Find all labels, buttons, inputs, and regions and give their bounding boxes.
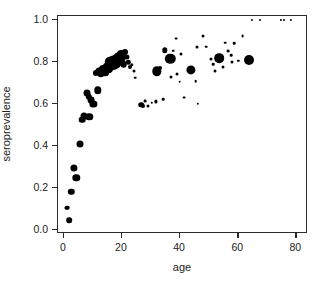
data-point [230, 54, 233, 57]
data-point [233, 42, 236, 45]
plot-frame [57, 15, 307, 233]
data-point [221, 66, 224, 69]
data-point [65, 206, 70, 211]
data-point [205, 45, 208, 48]
data-point [165, 53, 175, 63]
data-point [176, 72, 179, 75]
y-tick-mark [52, 61, 57, 62]
data-point [214, 54, 224, 64]
data-point [158, 66, 162, 70]
data-point [237, 60, 239, 62]
data-point [259, 19, 261, 21]
data-point [124, 54, 129, 59]
y-tick-label: 0.8 [33, 55, 48, 67]
y-tick-mark [52, 103, 57, 104]
data-point [162, 98, 165, 101]
data-point [227, 50, 230, 53]
x-tick-label: 0 [60, 241, 66, 253]
data-point [180, 52, 183, 55]
y-tick-mark [52, 187, 57, 188]
x-tick-mark [63, 233, 64, 238]
data-point [187, 65, 196, 74]
data-point [231, 60, 234, 63]
data-point [154, 100, 157, 103]
data-point [132, 69, 135, 72]
data-point [283, 19, 285, 21]
data-point [280, 19, 282, 21]
y-axis-label: seroprevalence [0, 86, 12, 161]
data-point [94, 87, 101, 94]
data-point [244, 55, 254, 65]
data-point [183, 96, 186, 99]
data-point [209, 57, 212, 60]
x-tick-label: 80 [290, 241, 302, 253]
scatter-plot-figure: 020406080 0.00.20.40.60.81.0 age seropre… [0, 0, 333, 285]
data-point [212, 63, 215, 66]
data-points-layer [58, 16, 306, 232]
y-tick-label: 0.6 [33, 97, 48, 109]
data-point [130, 63, 133, 66]
data-point [241, 35, 244, 38]
data-point [144, 100, 147, 103]
x-tick-label: 60 [231, 241, 243, 253]
data-point [150, 102, 152, 104]
data-point [224, 41, 227, 44]
data-point [251, 19, 253, 21]
y-tick-mark [52, 229, 57, 230]
data-point [196, 102, 198, 104]
x-tick-label: 20 [115, 241, 127, 253]
data-point [70, 164, 77, 171]
data-point [77, 141, 84, 148]
data-point [134, 76, 137, 79]
data-point [73, 174, 80, 181]
x-tick-label: 40 [173, 241, 185, 253]
data-point [175, 37, 178, 40]
data-point [170, 75, 173, 78]
y-tick-mark [52, 19, 57, 20]
x-tick-mark [179, 233, 180, 238]
x-tick-mark [237, 233, 238, 238]
data-point [194, 80, 197, 83]
x-tick-mark [295, 233, 296, 238]
data-point [86, 113, 93, 120]
data-point [68, 188, 74, 194]
data-point [141, 104, 145, 108]
y-tick-label: 1.0 [33, 13, 48, 25]
data-point [66, 217, 72, 223]
x-axis-label: age [173, 261, 191, 273]
data-point [178, 81, 181, 84]
x-tick-mark [121, 233, 122, 238]
data-point [289, 19, 291, 21]
data-point [146, 105, 149, 108]
data-point [90, 100, 97, 107]
data-point [195, 45, 198, 48]
data-point [213, 69, 216, 72]
y-tick-label: 0.2 [33, 181, 48, 193]
y-tick-mark [52, 145, 57, 146]
y-tick-label: 0.0 [33, 223, 48, 235]
data-point [172, 49, 175, 52]
y-tick-label: 0.4 [33, 139, 48, 151]
data-point [162, 48, 167, 53]
data-point [201, 34, 204, 37]
